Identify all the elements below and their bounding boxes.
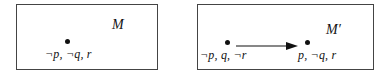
world-label: ¬p, ¬q, r	[45, 47, 92, 62]
transition-arrow-icon	[236, 42, 298, 50]
model-m-prime-name: M′	[326, 22, 341, 38]
world-label-target: p, ¬q, r	[298, 48, 336, 63]
model-m-box: M ¬p, ¬q, r	[16, 4, 158, 70]
model-m-name: M	[112, 17, 124, 33]
model-m-prime-box: M′ ¬p, q, ¬r p, ¬q, r	[197, 4, 374, 70]
world-dot-target	[305, 40, 310, 45]
world-label-source: ¬p, q, ¬r	[200, 48, 247, 63]
world-dot	[65, 39, 70, 44]
world-dot-source	[225, 40, 230, 45]
